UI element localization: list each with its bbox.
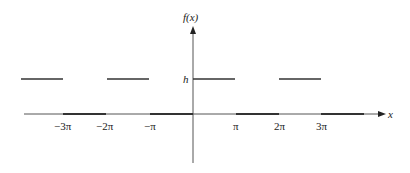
- tick-label-2pi: 2π: [274, 120, 286, 132]
- x-axis-arrow-icon: [378, 111, 386, 117]
- h-label: h: [183, 73, 189, 85]
- tick-label-neg2pi: −2π: [96, 120, 114, 132]
- tick-label-negpi: −π: [144, 120, 156, 132]
- x-axis-label: x: [387, 108, 393, 120]
- y-axis-arrow-icon: [190, 26, 196, 34]
- square-wave-chart: f(x) x h −3π −2π −π π 2π 3π: [0, 0, 410, 173]
- y-axis-label: f(x): [183, 11, 199, 24]
- tick-label-3pi: 3π: [316, 120, 328, 132]
- tick-label-neg3pi: −3π: [54, 120, 72, 132]
- tick-label-pi: π: [233, 120, 239, 132]
